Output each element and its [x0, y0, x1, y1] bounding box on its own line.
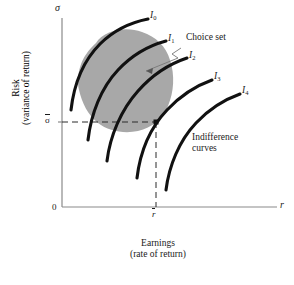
- curve-label-I0: I0: [150, 10, 156, 21]
- y-axis-title-line2: (variance of return): [21, 23, 31, 153]
- curve-label-I3: I3: [214, 71, 220, 82]
- curve-label-I4: I4: [242, 85, 248, 96]
- curve-label-I0-sub: 0: [153, 14, 156, 21]
- x-axis-title-line2: (rate of return): [108, 249, 208, 260]
- x-axis-title: Earnings (rate of return): [108, 238, 208, 259]
- choice-set-label: Choice set: [186, 32, 226, 43]
- curve-label-I2: I2: [189, 50, 195, 61]
- curve-label-I2-sub: 2: [192, 54, 195, 61]
- y-axis-title: Risk (variance of return): [11, 23, 31, 153]
- x-tick-label-r-bar: r: [152, 209, 156, 219]
- origin-label: 0: [52, 202, 57, 212]
- indifference-curves-label-line2: curves: [192, 143, 238, 154]
- curve-label-I1: I1: [168, 33, 174, 44]
- indifference-curves-label: Indifference curves: [192, 132, 238, 153]
- indifference-curve-figure: σ r 0 σ r I0 I1 I2 I3 I4 Choice set Indi…: [0, 0, 294, 285]
- indifference-curves-label-line1: Indifference: [192, 132, 238, 143]
- x-axis-symbol: r: [280, 199, 284, 210]
- y-axis-title-line1: Risk: [11, 23, 21, 153]
- curve-label-I3-sub: 3: [217, 75, 220, 82]
- y-tick-label-sigma-bar: σ: [45, 115, 50, 125]
- y-tick-label-text: σ: [45, 115, 50, 125]
- y-axis-symbol: σ: [55, 2, 60, 13]
- curve-label-I4-sub: 4: [245, 89, 248, 96]
- curve-label-I1-sub: 1: [171, 37, 174, 44]
- x-axis-title-line1: Earnings: [108, 238, 208, 249]
- x-tick-label-text: r: [152, 209, 156, 219]
